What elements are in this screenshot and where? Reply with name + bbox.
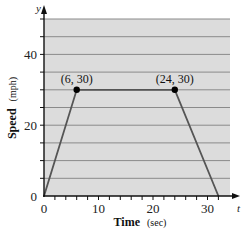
x-tick-label: 0 — [41, 201, 48, 216]
x-axis-variable: t — [237, 202, 241, 214]
x-tick-label: 20 — [147, 201, 160, 216]
y-axis-title: Speed (mph) — [2, 77, 19, 139]
y-tick-label: 40 — [24, 47, 37, 62]
x-axis-arrow — [232, 193, 240, 199]
y-axis-title-label: Speed — [5, 108, 19, 139]
y-tick-label: 0 — [31, 189, 38, 204]
y-axis-variable: y — [35, 2, 41, 14]
y-axis-title-unit: (mph) — [7, 77, 19, 101]
x-tick-label: 30 — [201, 201, 214, 216]
data-point-marker — [74, 87, 80, 93]
x-axis-title-label: Time — [114, 215, 141, 229]
data-point-label: (24, 30) — [156, 72, 194, 86]
x-axis-title-unit: (sec) — [147, 217, 166, 229]
x-tick-label: 10 — [92, 201, 105, 216]
data-point-marker — [172, 87, 178, 93]
data-point-label: (6, 30) — [61, 72, 93, 86]
y-tick-label: 20 — [24, 118, 37, 133]
y-axis-arrow — [41, 5, 47, 14]
speed-time-chart: 010203002040 (6, 30)(24, 30) y t Time (s… — [0, 0, 243, 233]
